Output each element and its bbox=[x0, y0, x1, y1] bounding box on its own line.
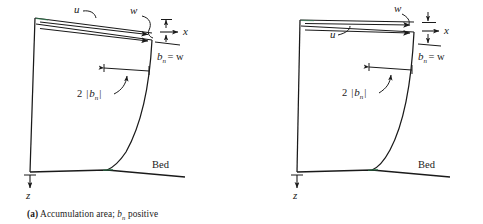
panel-a-caption-tail: positive bbox=[128, 209, 158, 219]
panel-ablation: u w x bn= w 2|bn| Bed bbox=[242, 0, 483, 224]
bed-label: Bed bbox=[418, 159, 436, 170]
velocity-u-label: u bbox=[330, 28, 336, 40]
bn-equals-w-label: bn= w bbox=[418, 50, 445, 65]
thickness-label: 2|bn| bbox=[77, 87, 101, 102]
thickness-measure-bar bbox=[369, 67, 412, 70]
velocity-u-arrow-upper bbox=[305, 24, 410, 26]
z-axis-label: z bbox=[292, 189, 298, 201]
panel-a-caption: (a) Accumulation area; bn positive bbox=[27, 209, 158, 221]
z-axis-label: z bbox=[25, 189, 31, 201]
panel-a-caption-sub: n bbox=[122, 214, 125, 221]
bn-bracket-line bbox=[418, 44, 441, 46]
bed-line bbox=[30, 170, 185, 177]
bed-contact-highlight bbox=[103, 170, 113, 171]
panel-a-caption-marker: (a) bbox=[27, 209, 38, 219]
bn-equals-w-label: bn= w bbox=[157, 50, 184, 65]
bn-bracket-line bbox=[155, 42, 180, 45]
ice-column-right-curve bbox=[372, 32, 414, 170]
velocity-w-label: w bbox=[130, 4, 138, 16]
velocity-w-label: w bbox=[394, 2, 402, 14]
ice-surface-lower bbox=[36, 24, 152, 40]
bed-contact-highlight bbox=[368, 170, 378, 171]
ice-column-right-curve bbox=[107, 40, 152, 170]
panel-a-diagram: u w x bn= w 2|bn| Bed bbox=[0, 0, 241, 200]
thickness-leader bbox=[379, 75, 391, 93]
panel-a-caption-text: Accumulation area; bbox=[40, 209, 115, 219]
ice-column-left-wall bbox=[30, 18, 35, 172]
thickness-measure-bar bbox=[104, 68, 149, 71]
glacier-mass-balance-figure: u w x bn= w 2|bn| Bed bbox=[0, 0, 483, 224]
panel-b-diagram: u w x bn= w 2|bn| Bed bbox=[242, 0, 483, 200]
bed-line bbox=[297, 170, 450, 177]
thickness-label: 2|bn| bbox=[342, 86, 366, 101]
velocity-u-arrow-upper bbox=[40, 22, 148, 35]
x-axis-label: x bbox=[443, 24, 449, 36]
bed-label: Bed bbox=[152, 159, 170, 170]
velocity-u-leader bbox=[83, 11, 96, 18]
panel-accumulation: u w x bn= w 2|bn| Bed bbox=[0, 0, 241, 224]
x-axis-label: x bbox=[182, 25, 188, 37]
ice-surface-upper bbox=[35, 18, 152, 33]
velocity-u-label: u bbox=[74, 3, 80, 15]
surface-contact-highlight bbox=[36, 18, 48, 20]
thickness-leader bbox=[114, 76, 127, 94]
ice-surface-upper bbox=[300, 20, 414, 22]
ice-column-left-wall bbox=[297, 20, 300, 172]
